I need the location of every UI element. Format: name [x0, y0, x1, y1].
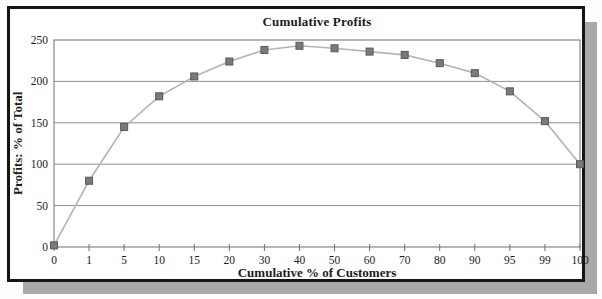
y-tick-label: 250: [31, 34, 49, 46]
data-point-marker: [86, 177, 93, 184]
y-tick-label: 0: [42, 241, 48, 253]
data-point-marker: [541, 118, 548, 125]
data-point-marker: [156, 93, 163, 100]
plot-border: [54, 40, 580, 247]
data-point-marker: [296, 42, 303, 49]
data-point-marker: [471, 70, 478, 77]
data-point-marker: [401, 51, 408, 58]
line-chart-plot-area: 0501001502002500151015203040506070809095…: [10, 9, 582, 279]
y-tick-label: 200: [31, 75, 49, 87]
chart-card: Cumulative Profits Profits: % of Total 0…: [7, 6, 585, 282]
data-point-marker: [121, 123, 128, 130]
data-point-marker: [577, 161, 584, 168]
data-point-marker: [191, 73, 198, 80]
profit-curve-line: [54, 46, 580, 246]
data-point-marker: [226, 58, 233, 65]
y-tick-label: 100: [31, 158, 49, 170]
data-point-marker: [506, 88, 513, 95]
data-point-marker: [366, 48, 373, 55]
data-point-marker: [436, 60, 443, 67]
data-point-marker: [331, 45, 338, 52]
data-point-marker: [261, 46, 268, 53]
y-tick-label: 150: [31, 117, 49, 129]
page-background: Cumulative Profits Profits: % of Total 0…: [0, 0, 602, 299]
y-tick-label: 50: [37, 200, 49, 212]
data-point-marker: [51, 242, 58, 249]
x-axis-title: Cumulative % of Customers: [54, 265, 580, 281]
